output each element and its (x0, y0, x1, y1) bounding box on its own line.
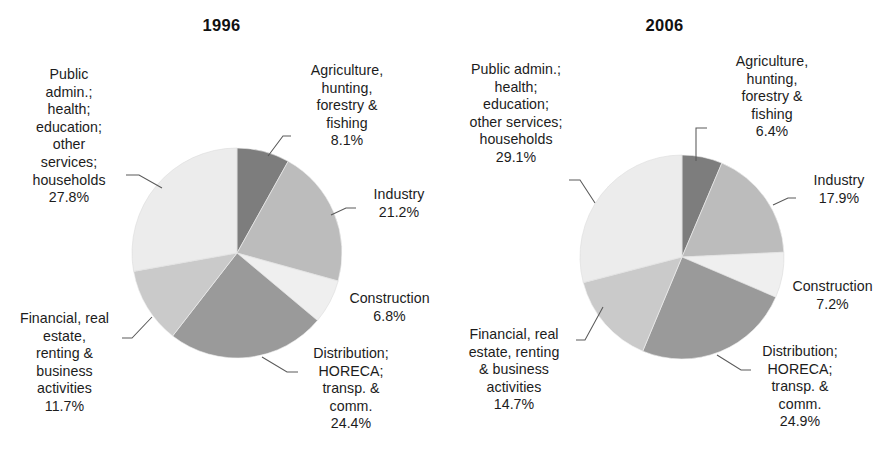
chart-panel-1996: 1996 Agriculture, hunting, forestry & fi… (0, 0, 443, 464)
leader-line-public-admin-2006 (569, 180, 595, 203)
pie-label-financial-1996: Financial, real estate, renting & busine… (6, 310, 123, 416)
pie-label-financial-2006: Financial, real estate, renting & busine… (447, 326, 581, 414)
pie-label-public-admin-2006: Public admin.; health; education; other … (443, 61, 589, 167)
leader-line-industry-2006 (773, 198, 796, 205)
pie-label-industry-1996: Industry 21.2% (357, 186, 441, 221)
pie-label-agriculture-2006: Agriculture, hunting, forestry & fishing… (715, 53, 829, 141)
pie-slice-public-admin-1996 (132, 148, 237, 271)
pie-chart-figure: 1996 Agriculture, hunting, forestry & fi… (0, 0, 886, 464)
chart-panel-2006: 2006 Agriculture, hunting, forestry & fi… (443, 0, 886, 464)
leader-line-distribution-2006 (717, 355, 751, 370)
pie-label-distribution-2006: Distribution; HORECA; transp. & comm. 24… (748, 343, 852, 431)
pie-label-industry-2006: Industry 17.9% (797, 172, 881, 207)
pie-label-distribution-1996: Distribution; HORECA; transp. & comm. 24… (299, 345, 403, 433)
pie-label-agriculture-1996: Agriculture, hunting, forestry & fishing… (287, 62, 407, 150)
pie-label-public-admin-1996: Public admin.; health; education; other … (10, 66, 128, 207)
leader-line-financial-1996 (122, 317, 152, 338)
pie-label-construction-1996: Construction 6.8% (336, 290, 443, 325)
leader-line-distribution-1996 (262, 357, 298, 372)
pie-label-construction-2006: Construction 7.2% (779, 278, 886, 313)
